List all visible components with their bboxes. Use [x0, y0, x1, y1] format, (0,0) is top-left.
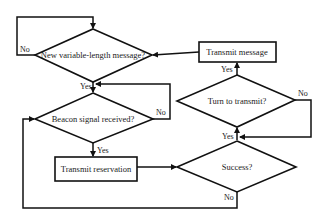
label-success-no: No — [224, 193, 234, 202]
node-success-label: Success? — [222, 162, 253, 172]
node-success-decision: Success? — [177, 141, 296, 192]
node-new-message-decision: New variable-length message? — [35, 29, 152, 82]
node-transmit-reservation-label: Transmit reservation — [61, 164, 132, 174]
edge-tx-message-to-new-msg — [153, 52, 199, 55]
node-transmit-message: Transmit message — [199, 42, 276, 62]
node-new-message-label: New variable-length message? — [41, 50, 146, 60]
label-beacon-no: No — [156, 108, 166, 117]
label-turn-no: No — [298, 89, 308, 98]
node-turn-decision: Turn to transmit? — [177, 75, 295, 127]
label-beacon-yes: Yes — [97, 146, 109, 155]
label-new-msg-yes: Yes — [80, 82, 92, 91]
node-transmit-message-label: Transmit message — [206, 47, 268, 57]
label-success-yes: Yes — [222, 132, 234, 141]
node-beacon-label: Beacon signal received? — [52, 114, 135, 124]
label-new-msg-no: No — [20, 45, 30, 54]
node-turn-label: Turn to transmit? — [208, 96, 267, 106]
node-transmit-reservation: Transmit reservation — [55, 157, 137, 181]
label-turn-yes: Yes — [221, 65, 233, 74]
flowchart-canvas: New variable-length message? Beacon sign… — [0, 0, 328, 221]
node-beacon-decision: Beacon signal received? — [35, 93, 153, 143]
